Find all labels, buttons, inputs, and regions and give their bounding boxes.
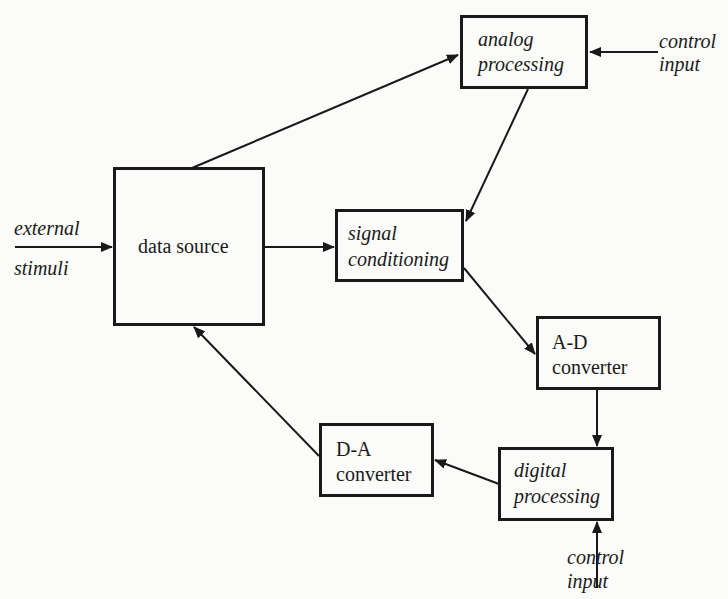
ad-converter-label-line2: converter xyxy=(552,356,628,379)
external-stimuli-label-line2: stimuli xyxy=(14,257,68,280)
control-input-analog-label-line1: control xyxy=(659,30,716,53)
analog-processing-block xyxy=(460,15,588,89)
analog-processing-label-line2: processing xyxy=(478,53,564,76)
arrow-analog-to-signal xyxy=(466,89,528,221)
arrow-source-to-analog xyxy=(192,55,458,168)
arrow-signal-to-ad xyxy=(464,268,535,354)
digital-processing-label-line1: digital xyxy=(514,459,566,482)
signal-conditioning-label-line1: signal xyxy=(348,222,397,245)
ad-converter-label-line1: A-D xyxy=(552,331,588,354)
control-input-analog-label-line2: input xyxy=(659,53,700,76)
signal-conditioning-block xyxy=(335,209,464,282)
da-converter-label-line1: D-A xyxy=(336,438,372,461)
control-input-digital-label-line1: control xyxy=(567,546,624,569)
arrow-digital-to-da xyxy=(435,460,499,484)
block-diagram: analog processing control input data sou… xyxy=(0,0,728,599)
connection-arrows xyxy=(0,0,728,599)
data-source-label: data source xyxy=(138,235,229,258)
da-converter-label-line2: converter xyxy=(336,463,412,486)
external-stimuli-label-line1: external xyxy=(14,217,80,240)
analog-processing-label-line1: analog xyxy=(478,28,534,51)
signal-conditioning-label-line2: conditioning xyxy=(348,248,449,271)
digital-processing-label-line2: processing xyxy=(514,485,600,508)
arrow-da-to-source xyxy=(194,327,319,456)
control-input-digital-label-line2: input xyxy=(567,570,608,593)
